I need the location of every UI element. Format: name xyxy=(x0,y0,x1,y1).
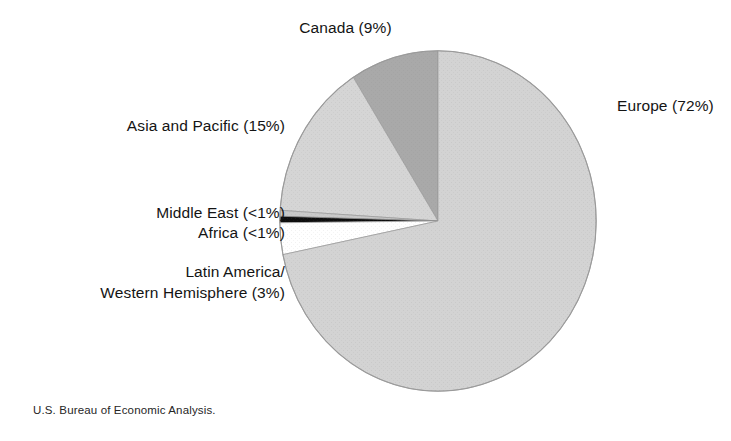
pie-paper-texture xyxy=(280,51,596,391)
slice-label-canada: Canada (9%) xyxy=(238,18,453,39)
slice-label-canada-text: Canada (9%) xyxy=(238,18,453,39)
slice-label-europe: Europe (72%) xyxy=(617,96,731,117)
slice-label-latin-america-line2: Western Hemisphere (3%) xyxy=(5,283,285,304)
slice-label-asia-and-pacific: Asia and Pacific (15%) xyxy=(38,116,285,137)
slice-label-middle-east: Middle East (<1%) xyxy=(35,203,285,224)
slice-label-europe-text: Europe (72%) xyxy=(617,96,731,117)
slice-label-middle-east-text: Middle East (<1%) xyxy=(35,203,285,224)
pie-chart-graphic xyxy=(279,50,597,392)
slice-label-africa-text: Africa (<1%) xyxy=(35,223,285,244)
slice-label-africa: Africa (<1%) xyxy=(35,223,285,244)
slice-label-asia-and-pacific-text: Asia and Pacific (15%) xyxy=(38,116,285,137)
slice-label-latin-america: Latin America/ Western Hemisphere (3%) xyxy=(5,262,285,304)
pie-chart-figure: Canada (9%) Europe (72%) Asia and Pacifi… xyxy=(0,0,731,441)
pie-svg xyxy=(279,50,597,392)
source-note: U.S. Bureau of Economic Analysis. xyxy=(33,404,216,416)
slice-label-latin-america-line1: Latin America/ xyxy=(5,262,285,283)
